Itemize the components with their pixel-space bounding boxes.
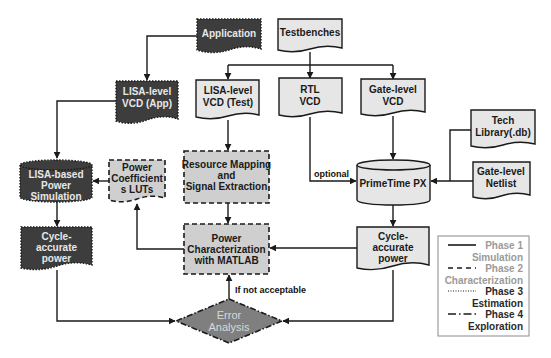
edge-tech-library-to-primetime (450, 130, 471, 181)
node-luts-line2: Coefficient (111, 173, 163, 184)
edge-label-optional: optional (314, 169, 349, 179)
node-lisa-vcd-app-line2: VCD (App) (122, 98, 172, 109)
node-luts-line3: s LUTs (121, 184, 154, 195)
node-tech-library-line2: Library(.db) (475, 127, 531, 138)
legend-phase2-desc: Characterization (445, 275, 523, 286)
node-testbenches: Testbenches (278, 19, 342, 52)
node-testbenches-label: Testbenches (280, 27, 341, 38)
node-resource-mapping: Resource Mapping and Signal Extraction (182, 151, 271, 203)
edge-characterization-to-luts (137, 204, 184, 249)
legend-phase2-label: Phase 2 (485, 263, 523, 274)
node-gate-vcd-line2: VCD (382, 96, 403, 107)
node-luts-line1: Power (122, 162, 152, 173)
node-lisa-power-sim-line3: Simulation (30, 191, 81, 202)
edge-application-to-lisa-vcd-app (147, 36, 197, 80)
node-characterization-line1: Power (211, 233, 241, 244)
node-rtl-vcd-line2: VCD (299, 96, 320, 107)
flow-diagram: optional If not acceptable Application T… (0, 0, 551, 358)
node-lisa-vcd-test-line2: VCD (Test) (203, 97, 253, 108)
node-application: Application (197, 19, 261, 53)
edge-cycle-power-right-to-error (283, 270, 393, 321)
node-resource-mapping-line2: and (218, 170, 236, 181)
node-lisa-vcd-test-line1: LISA-level (204, 85, 253, 96)
node-lisa-vcd-app: LISA-level VCD (App) (116, 81, 178, 123)
node-cycle-power-left-line2: accurate (36, 242, 78, 253)
legend: Phase 1 Simulation Phase 2 Characterizat… (438, 236, 529, 336)
node-cycle-power-right-line3: power (378, 253, 408, 264)
node-gate-netlist-line2: Netlist (486, 178, 517, 189)
node-lisa-power-sim-line1: LISA-based (28, 169, 83, 180)
edge-cycle-power-left-to-error (57, 270, 175, 321)
edge-lisa-vcd-app-to-power-sim (57, 101, 116, 158)
node-gate-netlist: Gate-level Netlist (473, 162, 530, 199)
node-primetime: PrimeTime PX (357, 160, 430, 205)
node-lisa-vcd-app-line1: LISA-level (123, 86, 172, 97)
node-cycle-power-right-line1: Cycle- (378, 231, 408, 242)
legend-phase1-desc: Simulation (472, 252, 523, 263)
legend-phase4-label: Phase 4 (485, 309, 523, 320)
node-cycle-power-right-line2: accurate (372, 242, 414, 253)
node-resource-mapping-line3: Signal Extraction (186, 181, 268, 192)
node-gate-vcd: Gate-level VCD (361, 79, 425, 116)
node-power-coeff-luts: Power Coefficient s LUTs (109, 160, 165, 202)
node-resource-mapping-line1: Resource Mapping (182, 159, 271, 170)
node-application-label: Application (202, 28, 256, 39)
node-characterization-line2: Characterization (187, 244, 265, 255)
node-error-analysis-line2: Analysis (209, 321, 250, 333)
legend-phase3-label: Phase 3 (485, 286, 523, 297)
legend-phase4-desc: Exploration (468, 321, 523, 332)
legend-phase1-label: Phase 1 (485, 240, 523, 251)
node-lisa-power-sim-line2: Power (41, 180, 71, 191)
legend-phase3-desc: Estimation (472, 298, 523, 309)
node-lisa-vcd-test: LISA-level VCD (Test) (196, 80, 259, 119)
node-error-analysis: Error Analysis (176, 299, 282, 343)
node-rtl-vcd: RTL VCD (279, 78, 342, 117)
node-primetime-label: PrimeTime PX (359, 178, 426, 189)
edge-label-if-not-acceptable: If not acceptable (235, 285, 306, 295)
node-gate-vcd-line1: Gate-level (369, 84, 417, 95)
node-power-characterization: Power Characterization with MATLAB (184, 224, 269, 274)
node-cycle-power-left: Cycle- accurate power (21, 227, 92, 270)
node-cycle-power-right: Cycle- accurate power (357, 227, 429, 270)
node-tech-library-line1: Tech (492, 115, 515, 126)
node-lisa-power-sim: LISA-based Power Simulation (20, 160, 92, 202)
node-rtl-vcd-line1: RTL (300, 84, 319, 95)
node-cycle-power-left-line1: Cycle- (41, 231, 71, 242)
node-gate-netlist-line1: Gate-level (477, 166, 525, 177)
node-characterization-line3: with MATLAB (193, 255, 258, 266)
node-cycle-power-left-line3: power (42, 253, 72, 264)
node-tech-library: Tech Library(.db) (471, 110, 535, 148)
node-error-analysis-line1: Error (217, 309, 242, 321)
